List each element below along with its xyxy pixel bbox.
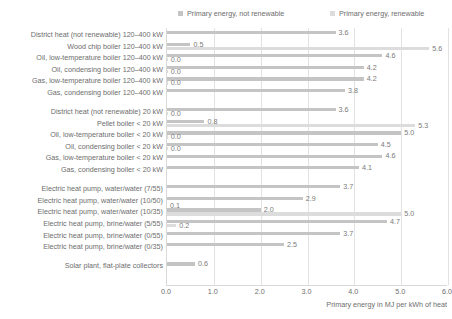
y-axis-label: Electric heat pump, water/water (10/35) [38,208,163,215]
bar-not-renewable [167,54,382,57]
bar-row: 4.6 [167,153,448,165]
bar-not-renewable [167,220,387,223]
bar-renewable [167,81,168,84]
x-tick-label: 0.0 [161,288,171,295]
bar-value-label: 2.5 [287,241,297,248]
bar-not-renewable [167,120,204,123]
bar-not-renewable [167,185,340,188]
legend-swatch-not-renewable [178,11,183,16]
bar-row: 4.20.0 [167,64,448,76]
bar-value-label: 5.0 [404,129,414,136]
bar-row: 2.5 [167,242,448,254]
legend-item-not-renewable: Primary energy, not renewable [178,9,284,18]
bar-value-label: 4.1 [362,164,372,171]
bar-not-renewable [167,89,345,92]
x-axis-title: Primary energy in MJ per kWh of heat [326,301,447,308]
bar-not-renewable [167,143,378,146]
bar-not-renewable [167,31,336,34]
bar-not-renewable [167,108,336,111]
bar-value-label: 0.6 [198,260,208,267]
x-tick-label: 2.0 [255,288,265,295]
y-axis-label: Electric heat pump, brine/water (0/35) [43,243,163,250]
chart-legend: Primary energy, not renewable Primary en… [0,9,452,23]
plot-area: 3.60.55.64.60.04.20.04.20.03.83.60.00.85… [166,28,448,285]
y-axis-label: Oil, low-temperature boiler < 20 kW [50,131,163,138]
bar-row: 3.8 [167,88,448,100]
gridline [448,28,449,285]
bar-value-label: 3.6 [339,29,349,36]
bar-value-label: 0.0 [171,56,181,63]
bar-value-label: 0.0 [171,68,181,75]
bar-value-label: 3.8 [348,87,358,94]
bar-not-renewable [167,243,284,246]
bar-renewable [167,70,168,73]
bar-value-label: 4.2 [367,75,377,82]
bar-renewable [167,135,168,138]
y-axis-labels: District heat (not renewable) 120–400 kW… [0,28,163,285]
bar-not-renewable [167,66,364,69]
bar-value-label: 0.0 [171,79,181,86]
bar-value-label: 2.9 [306,195,316,202]
y-axis-label: Oil, low-temperature boiler 120–400 kW [36,54,163,61]
bar-not-renewable [167,232,340,235]
bar-row: 4.20.0 [167,76,448,88]
bar-value-label: 0.1 [170,202,180,209]
bar-value-label: 0.0 [171,133,181,140]
bar-not-renewable [167,43,190,46]
bar-row: 4.50.0 [167,141,448,153]
y-axis-label: Electric heat pump, water/water (10/50) [38,197,163,204]
bar-value-label: 0.2 [179,222,189,229]
bar-row: 4.70.2 [167,219,448,231]
bar-renewable [167,112,168,115]
y-axis-label: Wood chip boiler 120–400 kW [67,43,163,50]
x-tick-label: 1.0 [208,288,218,295]
bar-value-label: 5.3 [418,122,428,129]
x-tick-label: 3.0 [302,288,312,295]
x-tick-label: 5.0 [395,288,405,295]
y-axis-label: Oil, condensing boiler < 20 kW [65,143,163,150]
bar-not-renewable [167,77,364,80]
bar-not-renewable [167,197,303,200]
legend-label-renewable: Primary energy, renewable [339,9,424,18]
bar-row: 3.7 [167,230,448,242]
bar-row: 4.1 [167,165,448,177]
y-axis-label: Gas, condensing boiler 120–400 kW [47,89,163,96]
bar-row: 2.9 [167,195,448,207]
bar-value-label: 4.2 [367,64,377,71]
bar-row: 2.05.00.1 [167,207,448,219]
bar-row: 0.6 [167,261,448,273]
bar-value-label: 3.7 [343,183,353,190]
y-axis-label: District heat (not renewable) 120–400 kW [31,31,163,38]
y-axis-label: Electric heat pump, brine/water (5/55) [43,220,163,227]
bar-renewable [167,212,401,215]
legend-swatch-renewable [330,11,335,16]
bar-not-renewable [167,131,401,134]
y-axis-label: Pellet boiler < 20 kW [97,120,163,127]
bar-value-label: 4.5 [381,141,391,148]
y-axis-label: Gas, low-temperature boiler 120–400 kW [32,77,163,84]
bar-renewable [167,224,176,227]
bar-value-label: 4.6 [385,152,395,159]
primary-energy-bar-chart: Primary energy, not renewable Primary en… [0,0,452,319]
legend-item-renewable: Primary energy, renewable [330,9,424,18]
y-axis-label: Gas, condensing boiler < 20 kW [61,166,163,173]
bar-value-label: 0.0 [171,145,181,152]
bar-row: 0.55.6 [167,41,448,53]
bar-value-label: 5.6 [432,45,442,52]
legend-label-not-renewable: Primary energy, not renewable [187,9,284,18]
bar-value-label: 3.6 [339,106,349,113]
bar-value-label: 0.0 [171,110,181,117]
y-axis-label: Oil, condensing boiler 120–400 kW [52,66,163,73]
y-axis-label: Solar plant, flat-plate collectors [65,262,163,269]
bar-not-renewable [167,262,195,265]
y-axis-label: Electric heat pump, brine/water (0/55) [43,232,163,239]
bar-not-renewable [167,155,382,158]
bar-renewable [167,124,415,127]
bar-renewable [167,147,168,150]
bar-value-label: 4.6 [385,52,395,59]
x-tick-label: 4.0 [348,288,358,295]
bar-value-label: 4.7 [390,218,400,225]
bar-not-renewable [167,208,261,211]
bar-value-label: 3.7 [343,230,353,237]
bar-row: 4.60.0 [167,53,448,65]
